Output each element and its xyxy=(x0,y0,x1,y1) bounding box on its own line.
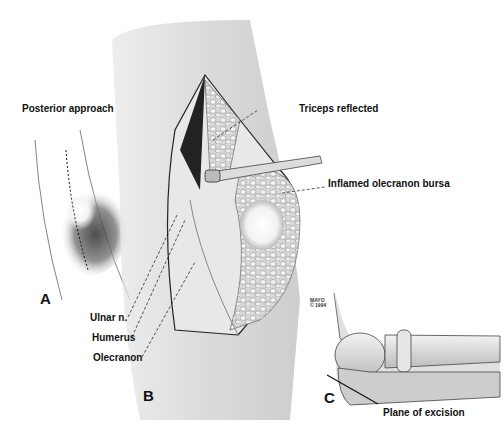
surgical-illustration: Posterior approach A Triceps reflected I… xyxy=(0,0,504,442)
label-inflamed-olecranon-bursa: Inflamed olecranon bursa xyxy=(328,178,450,189)
illustration-artwork xyxy=(0,0,504,442)
label-humerus: Humerus xyxy=(92,332,135,343)
label-plane-of-excision: Plane of excision xyxy=(383,407,465,418)
panel-label-a: A xyxy=(40,290,51,307)
label-triceps-reflected: Triceps reflected xyxy=(299,103,378,114)
panel-b-drawing xyxy=(112,20,325,420)
panel-a-drawing xyxy=(35,130,130,300)
copyright-line-2: © 1994 xyxy=(310,303,326,308)
copyright-mark: MAYO © 1994 xyxy=(310,298,326,308)
label-posterior-approach: Posterior approach xyxy=(22,103,114,114)
label-olecranon: Olecranon xyxy=(93,352,142,363)
panel-c-drawing xyxy=(327,292,500,405)
label-ulnar-nerve: Ulnar n. xyxy=(90,312,127,323)
panel-label-b: B xyxy=(143,387,154,404)
panel-label-c: C xyxy=(324,389,335,406)
